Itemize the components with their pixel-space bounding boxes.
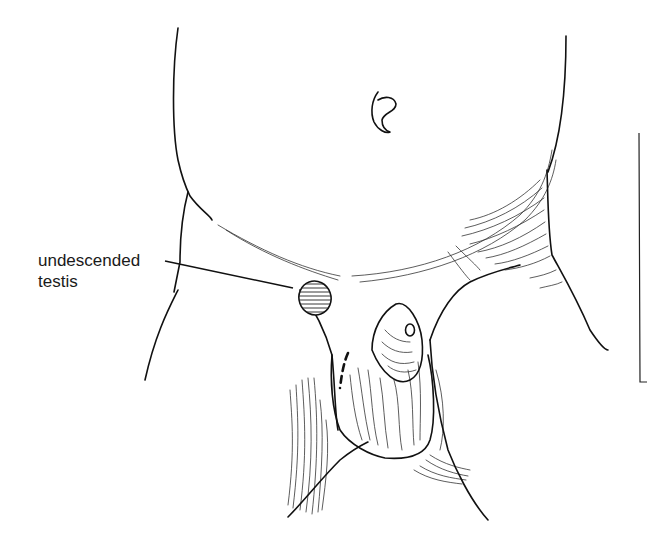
- left-flank-contour: [174, 192, 188, 292]
- empty-hemiscrotum-dashed-line: [340, 353, 348, 388]
- scale-bracket: [639, 133, 647, 382]
- label-line-1: undescended: [38, 250, 140, 271]
- penis-outline: [372, 304, 423, 382]
- belly-fold-curve-2: [226, 230, 338, 280]
- scrotum-wrinkles: [350, 362, 421, 450]
- label-line-2: testis: [38, 271, 140, 292]
- right-flank-contour: [547, 170, 608, 350]
- penis-meatus: [406, 324, 415, 336]
- right-thigh-inner-contour: [430, 340, 488, 520]
- belly-fold-curve: [218, 225, 340, 276]
- label-leader-line: [165, 261, 293, 288]
- right-groin-shading: [448, 180, 562, 288]
- left-thigh-contour: [145, 290, 178, 380]
- right-groin-contour: [430, 265, 520, 340]
- abdomen-right-contour: [548, 36, 566, 172]
- abdomen-left-contour: [174, 28, 213, 220]
- navel: [372, 92, 396, 133]
- undescended-testis-label: undescended testis: [38, 250, 140, 292]
- left-leg-inner-contour: [288, 442, 368, 517]
- left-thigh-shading: [288, 378, 328, 514]
- undescended-testis-marker: [294, 277, 336, 320]
